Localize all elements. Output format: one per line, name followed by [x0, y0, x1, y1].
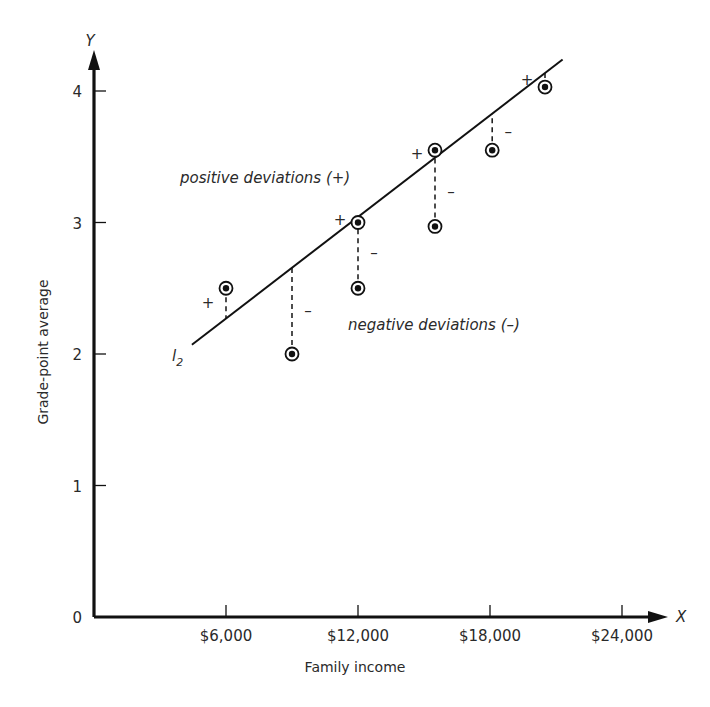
minus-sign: – — [447, 183, 455, 201]
positive-deviations-annotation: positive deviations (+) — [179, 169, 350, 187]
minus-sign: – — [504, 123, 512, 141]
y-ticks: 1234 — [72, 83, 106, 496]
y-axis-title: Grade-point average — [35, 279, 51, 424]
plus-sign: + — [202, 294, 215, 312]
y-tick-label: 1 — [72, 478, 82, 496]
plus-sign: + — [334, 211, 347, 229]
y-axis-arrow-icon — [88, 50, 100, 70]
x-tick-label: $12,000 — [327, 627, 389, 645]
x-tick-label: $18,000 — [459, 627, 521, 645]
origin-label: 0 — [72, 609, 82, 627]
x-axis-arrow-icon — [648, 611, 668, 623]
x-axis-title: Family income — [305, 659, 406, 675]
x-tick-label: $24,000 — [591, 627, 653, 645]
data-point-dot — [432, 147, 438, 153]
data-point-dot — [432, 223, 438, 229]
data-point-dot — [542, 84, 548, 90]
chart-canvas: Y X 0 1234 $6,000$12,000$18,000$24,000 F… — [0, 0, 710, 707]
x-tick-label: $6,000 — [200, 627, 253, 645]
negative-deviations-annotation: negative deviations (–) — [348, 316, 520, 334]
data-point-dot — [355, 219, 361, 225]
minus-sign: – — [304, 302, 312, 320]
regression-line — [192, 59, 563, 344]
y-tick-label: 4 — [72, 83, 82, 101]
data-point-dot — [223, 285, 229, 291]
data-point-dot — [489, 147, 495, 153]
y-tick-label: 3 — [72, 215, 82, 233]
y-tick-label: 2 — [72, 346, 82, 364]
data-point-dot — [355, 285, 361, 291]
data-point-dot — [289, 351, 295, 357]
y-axis-letter: Y — [85, 32, 96, 50]
plus-sign: + — [411, 145, 424, 163]
minus-sign: – — [370, 244, 378, 262]
regression-line-path — [192, 59, 563, 344]
x-ticks: $6,000$12,000$18,000$24,000 — [200, 605, 653, 645]
line-label: l2 — [172, 347, 183, 369]
x-axis-letter: X — [675, 608, 687, 626]
